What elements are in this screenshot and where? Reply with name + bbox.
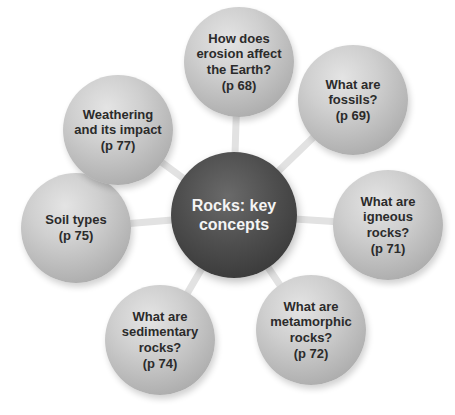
- node-fossils[interactable]: What are fossils? (p 69): [298, 45, 408, 155]
- node-igneous-label: What are igneous rocks? (p 71): [361, 194, 416, 256]
- rocks-concept-map: How does erosion affect the Earth? (p 68…: [0, 0, 455, 415]
- center-node-label: Rocks: key concepts: [192, 196, 277, 234]
- node-soil-types-label: Soil types (p 75): [45, 212, 106, 243]
- node-igneous[interactable]: What are igneous rocks? (p 71): [333, 170, 443, 280]
- node-weathering-label: Weathering and its impact (p 77): [74, 107, 161, 154]
- node-erosion[interactable]: How does erosion affect the Earth? (p 68…: [184, 7, 294, 117]
- node-weathering[interactable]: Weathering and its impact (p 77): [63, 75, 173, 185]
- center-node[interactable]: Rocks: key concepts: [171, 152, 297, 278]
- node-fossils-label: What are fossils? (p 69): [326, 77, 381, 124]
- node-sedimentary-label: What are sedimentary rocks? (p 74): [122, 309, 199, 371]
- node-erosion-label: How does erosion affect the Earth? (p 68…: [196, 31, 281, 93]
- node-metamorphic[interactable]: What are metamorphic rocks? (p 72): [256, 275, 366, 385]
- node-sedimentary[interactable]: What are sedimentary rocks? (p 74): [105, 285, 215, 395]
- node-soil-types[interactable]: Soil types (p 75): [21, 173, 131, 283]
- node-metamorphic-label: What are metamorphic rocks? (p 72): [270, 299, 352, 361]
